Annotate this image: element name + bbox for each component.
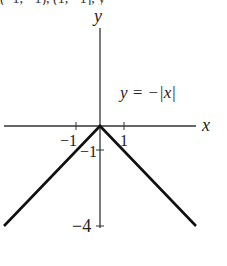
y-tick-label-neg1: −1: [80, 143, 97, 160]
x-tick-label-neg1: −1: [60, 132, 77, 149]
y-tick-label-neg4: −4: [72, 216, 91, 236]
equation-label: y = −|x|: [118, 83, 176, 102]
y-axis-label: y: [92, 6, 102, 26]
x-axis-label: x: [201, 115, 210, 135]
x-tick-label-pos1: 1: [120, 132, 128, 149]
graph: y x y = −|x| −1 1 −1 −4: [0, 0, 227, 266]
